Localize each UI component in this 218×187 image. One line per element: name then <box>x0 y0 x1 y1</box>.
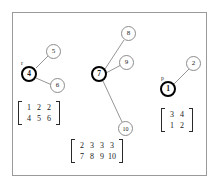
matrix-cell: 3 <box>97 140 107 151</box>
matrix-middle-tree: 2 3 3 3 7 8 9 10 <box>71 139 123 163</box>
matrix-right-tree: 3 4 1 2 <box>161 108 193 132</box>
matrix-cell: 3 <box>87 140 97 151</box>
node-root-1[interactable]: 1 <box>160 81 176 97</box>
node-2[interactable]: 2 <box>186 56 201 71</box>
matrix-cell: 9 <box>97 151 107 162</box>
matrix-cell: 2 <box>34 102 44 113</box>
node-root-4[interactable]: 4 <box>21 66 37 82</box>
matrix-cell: 4 <box>24 113 34 124</box>
matrix-cell: 3 <box>107 140 117 151</box>
bracket-right-close <box>189 108 193 132</box>
node-9[interactable]: 9 <box>119 55 134 70</box>
matrix-row: 3 4 <box>167 109 187 120</box>
matrix-cell: 4 <box>177 109 187 120</box>
matrix-cell: 1 <box>24 102 34 113</box>
matrix-cell: 2 <box>77 140 87 151</box>
node-root-7[interactable]: 7 <box>91 66 107 82</box>
matrix-cell: 3 <box>167 109 177 120</box>
matrix-cell: 2 <box>177 120 187 131</box>
matrix-cell: 8 <box>87 151 97 162</box>
matrix-row: 4 5 6 <box>24 113 54 124</box>
pointer-label-right-tree: p <box>161 75 164 81</box>
matrix-left-body: 1 2 2 4 5 6 <box>22 101 56 125</box>
matrix-cell: 2 <box>44 102 54 113</box>
matrix-cell: 7 <box>77 151 87 162</box>
matrix-row: 2 3 3 3 <box>77 140 117 151</box>
node-5[interactable]: 5 <box>46 44 61 59</box>
pointer-label-left-tree: r <box>21 60 23 66</box>
edge-7-9 <box>106 65 121 73</box>
matrix-right-body: 3 4 1 2 <box>165 108 189 132</box>
bracket-left-close <box>56 101 60 125</box>
node-6[interactable]: 6 <box>50 78 65 93</box>
matrix-cell: 6 <box>44 113 54 124</box>
node-10[interactable]: 10 <box>118 121 133 136</box>
figure-container: r 4 5 6 1 2 2 4 5 6 7 8 9 10 2 3 <box>0 0 218 187</box>
edge-7-10 <box>103 81 122 122</box>
matrix-row: 1 2 <box>167 120 187 131</box>
edge-4-5 <box>36 56 48 68</box>
matrix-row: 1 2 2 <box>24 102 54 113</box>
bracket-middle-close <box>119 139 123 163</box>
matrix-row: 7 8 9 10 <box>77 151 117 162</box>
node-8[interactable]: 8 <box>121 26 136 41</box>
edge-1-2 <box>174 69 189 84</box>
matrix-cell: 1 <box>167 120 177 131</box>
matrix-middle-body: 2 3 3 3 7 8 9 10 <box>75 139 119 163</box>
matrix-cell: 10 <box>107 151 117 162</box>
matrix-left-tree: 1 2 2 4 5 6 <box>18 101 60 125</box>
matrix-cell: 5 <box>34 113 44 124</box>
